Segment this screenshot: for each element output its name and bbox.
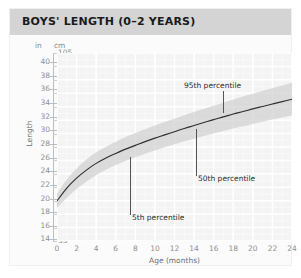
x-tick-month: 8: [127, 244, 143, 253]
y-tick-mark-inches: [50, 199, 57, 200]
annotation-95th-percentile: 95th percentile: [184, 81, 241, 90]
unit-label-inches: in: [35, 41, 42, 50]
y-tick-inches: 14: [40, 235, 50, 243]
y-tick-mark-inches: [50, 89, 57, 90]
y-tick-mark-cm: [53, 120, 57, 121]
y-tick-inches: 38: [40, 72, 50, 80]
y-tick-inches: 16: [40, 222, 50, 230]
y-tick-inches: 20: [40, 195, 50, 203]
y-tick-mark-cm: [53, 201, 57, 202]
y-tick-mark-inches: [50, 130, 57, 131]
leader-line-50th: [196, 129, 197, 176]
y-tick-mark-inches: [50, 158, 57, 159]
y-tick-mark-inches: [50, 171, 57, 172]
y-tick-inches: 22: [40, 181, 50, 189]
y-tick-mark-cm: [53, 134, 57, 135]
y-tick-mark-cm: [53, 66, 57, 67]
y-tick-mark-cm: [53, 241, 57, 242]
y-tick-mark-cm: [53, 214, 57, 215]
annotation-50th-percentile: 50th percentile: [198, 174, 255, 183]
y-tick-inches: 30: [40, 126, 50, 134]
x-tick-month: 12: [167, 244, 183, 253]
leader-line-5th: [130, 157, 131, 215]
x-tick-month: 6: [108, 244, 124, 253]
x-tick-month: 14: [186, 244, 202, 253]
y-tick-inches: 32: [40, 113, 50, 121]
x-tick-month: 4: [88, 244, 104, 253]
x-tick-month: 18: [225, 244, 241, 253]
y-tick-inches: 40: [40, 58, 50, 66]
y-tick-mark-inches: [50, 62, 57, 63]
annotation-5th-percentile: 5th percentile: [132, 213, 184, 222]
y-tick-mark-cm: [53, 93, 57, 94]
page-title: BOYS' LENGTH (0–2 YEARS): [22, 15, 195, 28]
y-tick-mark-cm: [53, 160, 57, 161]
chart-header-bar: BOYS' LENGTH (0–2 YEARS): [10, 9, 291, 35]
y-tick-mark-inches: [50, 76, 57, 77]
y-tick-inches: 34: [40, 99, 50, 107]
x-tick-month: 22: [264, 244, 280, 253]
y-tick-mark-cm: [53, 80, 57, 81]
x-tick-month: 24: [284, 244, 300, 253]
y-tick-mark-cm: [53, 228, 57, 229]
y-tick-mark-cm: [53, 187, 57, 188]
x-tick-month: 0: [49, 244, 65, 253]
y-tick-mark-cm: [53, 53, 57, 54]
y-tick-inches: 36: [40, 85, 50, 93]
x-axis-title: Age (months): [57, 256, 292, 265]
x-tick-month: 16: [206, 244, 222, 253]
y-tick-mark-inches: [50, 185, 57, 186]
y-tick-mark-inches: [50, 144, 57, 145]
y-tick-mark-cm: [53, 174, 57, 175]
y-tick-inches: 26: [40, 154, 50, 162]
y-tick-mark-inches: [50, 103, 57, 104]
y-tick-mark-inches: [50, 117, 57, 118]
y-tick-inches: 24: [40, 167, 50, 175]
chart-card: BOYS' LENGTH (0–2 YEARS) in cm Length 40…: [10, 9, 291, 265]
x-tick-month: 20: [245, 244, 261, 253]
y-tick-mark-inches: [50, 212, 57, 213]
x-tick-month: 10: [147, 244, 163, 253]
x-tick-month: 2: [69, 244, 85, 253]
y-axis-title: Length: [25, 104, 34, 164]
y-tick-mark-cm: [53, 107, 57, 108]
y-tick-mark-cm: [53, 147, 57, 148]
y-tick-inches: 18: [40, 208, 50, 216]
y-tick-inches: 28: [40, 140, 50, 148]
leader-line-95th: [223, 91, 224, 113]
